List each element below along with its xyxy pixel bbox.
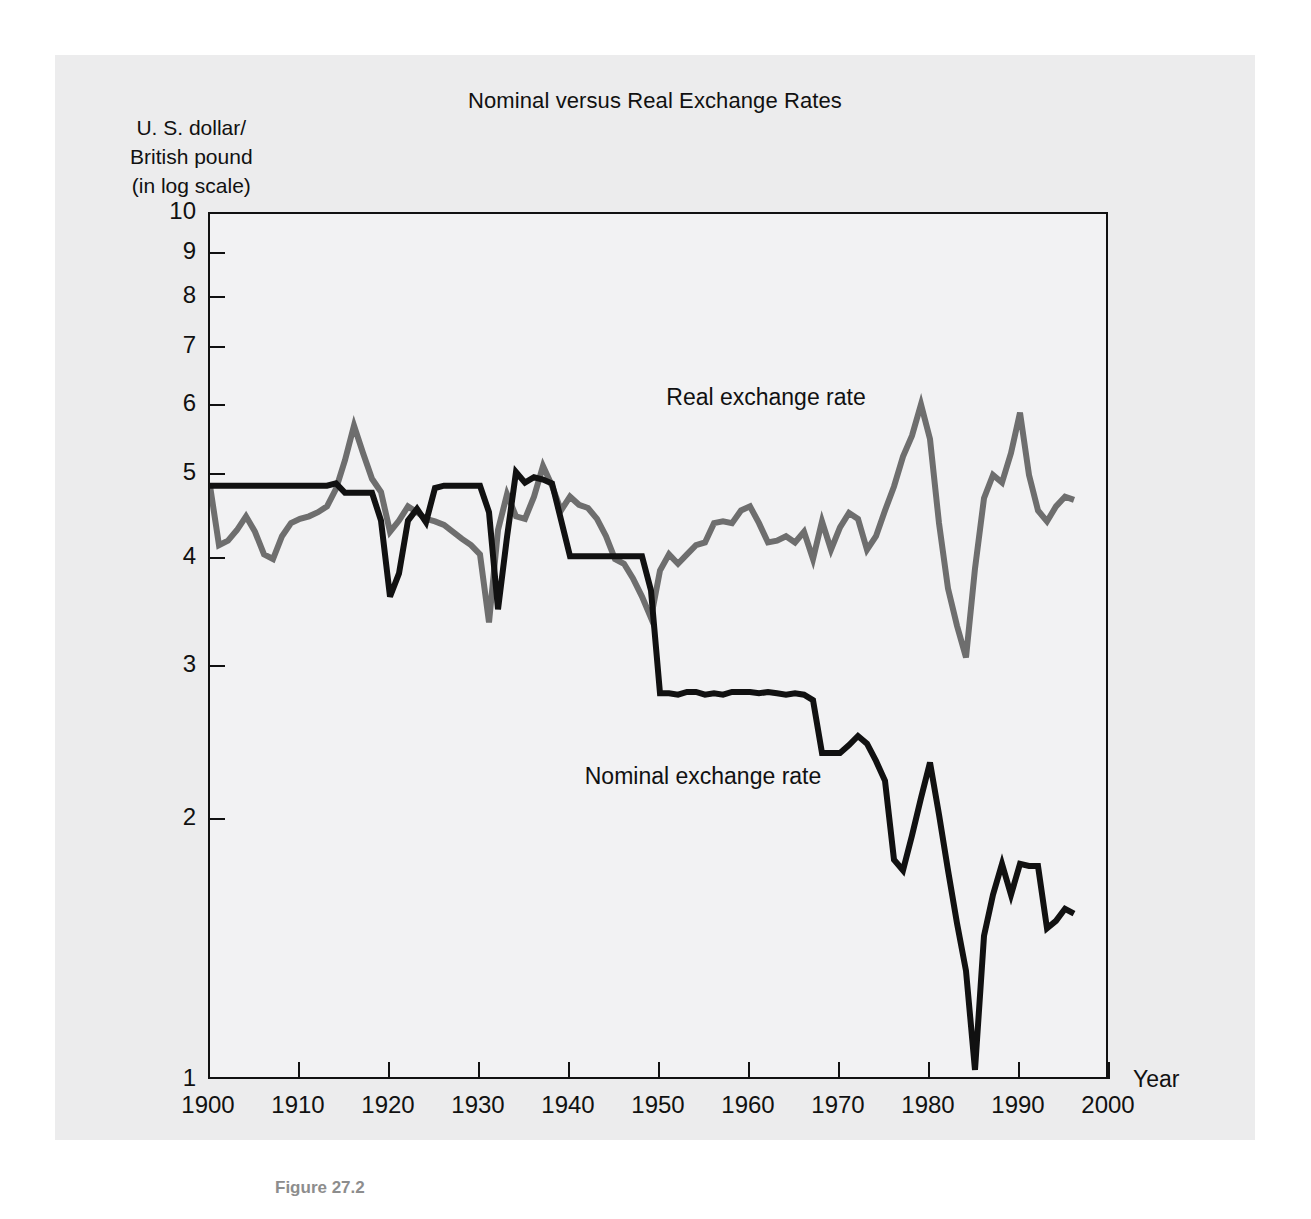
y-tick-mark xyxy=(208,557,225,559)
x-tick-mark xyxy=(1018,1062,1020,1079)
x-tick-label: 1970 xyxy=(793,1091,883,1119)
figure-caption: Figure 27.2 xyxy=(275,1178,365,1198)
x-tick-label: 1980 xyxy=(883,1091,973,1119)
x-tick-label: 1940 xyxy=(523,1091,613,1119)
y-tick-label: 4 xyxy=(142,542,196,570)
y-tick-mark xyxy=(208,296,225,298)
y-tick-mark xyxy=(208,404,225,406)
chart-title: Nominal versus Real Exchange Rates xyxy=(55,88,1255,114)
x-tick-label: 1920 xyxy=(343,1091,433,1119)
x-tick-mark xyxy=(1108,1062,1110,1079)
x-tick-label: 2000 xyxy=(1063,1091,1153,1119)
y-tick-mark xyxy=(208,818,225,820)
x-tick-label: 1990 xyxy=(973,1091,1063,1119)
y-tick-label: 10 xyxy=(142,197,196,225)
x-tick-mark xyxy=(838,1062,840,1079)
x-tick-mark xyxy=(478,1062,480,1079)
x-tick-mark xyxy=(658,1062,660,1079)
x-tick-label: 1900 xyxy=(163,1091,253,1119)
x-tick-label: 1950 xyxy=(613,1091,703,1119)
x-tick-mark xyxy=(568,1062,570,1079)
x-tick-label: 1960 xyxy=(703,1091,793,1119)
real-exchange-rate-line xyxy=(210,404,1074,657)
real-series-label: Real exchange rate xyxy=(666,384,865,411)
plot-area xyxy=(208,212,1108,1079)
x-tick-mark xyxy=(928,1062,930,1079)
x-tick-mark xyxy=(298,1062,300,1079)
y-tick-label: 6 xyxy=(142,389,196,417)
y-tick-mark xyxy=(208,665,225,667)
y-tick-label: 9 xyxy=(142,237,196,265)
y-tick-label: 3 xyxy=(142,650,196,678)
y-tick-label: 2 xyxy=(142,803,196,831)
figure-panel: Nominal versus Real Exchange Rates U. S.… xyxy=(55,55,1255,1140)
x-tick-label: 1930 xyxy=(433,1091,523,1119)
y-tick-label: 8 xyxy=(142,281,196,309)
y-tick-mark xyxy=(208,252,225,254)
y-tick-label: 5 xyxy=(142,458,196,486)
y-tick-label: 7 xyxy=(142,331,196,359)
x-tick-mark xyxy=(748,1062,750,1079)
y-tick-mark xyxy=(208,346,225,348)
x-tick-mark xyxy=(388,1062,390,1079)
y-axis-title: U. S. dollar/ British pound (in log scal… xyxy=(130,113,253,200)
chart-lines-svg xyxy=(210,214,1110,1081)
y-tick-mark xyxy=(208,473,225,475)
y-tick-label: 1 xyxy=(142,1064,196,1092)
x-tick-label: 1910 xyxy=(253,1091,343,1119)
nominal-series-label: Nominal exchange rate xyxy=(585,763,822,790)
x-axis-title: Year xyxy=(1133,1066,1179,1093)
